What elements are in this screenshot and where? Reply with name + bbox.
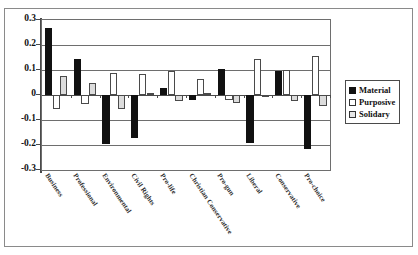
y-tick-mark: [36, 144, 40, 145]
x-tick-mark: [186, 95, 187, 98]
x-tick-mark: [100, 95, 101, 98]
legend-item: Material: [349, 84, 395, 96]
chart-figure: 0.30.20.10-0.1-0.2-0.3 BusinessProfessio…: [0, 0, 418, 255]
bar-material: [189, 95, 196, 100]
y-tick-label: 0.1: [24, 64, 36, 74]
legend-item: Purposive: [349, 96, 395, 108]
bar-purposive: [225, 95, 232, 100]
y-tick-label: -0.1: [21, 114, 36, 124]
x-tick-mark: [301, 95, 302, 98]
bar-material: [304, 95, 311, 149]
y-axis-labels: 0.30.20.10-0.1-0.2-0.3: [0, 0, 36, 255]
x-tick-mark: [244, 95, 245, 98]
bar-purposive: [139, 74, 146, 95]
x-axis-category-label: Professional: [72, 172, 100, 208]
material-swatch: [349, 87, 356, 94]
x-axis-labels: BusinessProfessionalEnvironmentalCivil R…: [41, 172, 331, 252]
legend-item: Solidary: [349, 108, 395, 120]
y-tick-label: 0.3: [24, 14, 36, 24]
bar-solidary: [291, 95, 298, 101]
x-tick-mark: [215, 95, 216, 98]
x-axis-category-label: Conservative: [273, 172, 302, 210]
gridline: [42, 145, 330, 146]
bar-purposive: [197, 79, 204, 95]
bar-solidary: [233, 95, 240, 103]
solidary-swatch: [349, 111, 356, 118]
bar-material: [102, 95, 109, 144]
legend-item-label: Material: [359, 86, 391, 95]
x-tick-mark: [128, 95, 129, 98]
x-tick-mark: [71, 95, 72, 98]
x-axis-category-label: Liberal: [245, 172, 264, 195]
gridline: [42, 120, 330, 121]
x-tick-mark: [330, 95, 331, 98]
bar-material: [246, 95, 253, 143]
y-tick-label: -0.2: [21, 139, 36, 149]
bar-solidary: [262, 95, 269, 97]
bar-solidary: [319, 95, 326, 106]
x-tick-mark: [157, 95, 158, 98]
bar-material: [131, 95, 138, 138]
x-axis-category-label: Pro-choice: [302, 172, 327, 204]
chart-legend: MaterialPurposiveSolidary: [345, 80, 400, 124]
bar-solidary: [204, 93, 211, 95]
bar-purposive: [168, 71, 175, 95]
plot-area: [41, 19, 331, 171]
bar-material: [160, 88, 167, 96]
purposive-swatch: [349, 99, 356, 106]
y-tick-mark: [36, 19, 40, 20]
bar-purposive: [254, 59, 261, 95]
bar-material: [275, 71, 282, 95]
x-tick-mark: [272, 95, 273, 98]
y-tick-mark: [36, 94, 40, 95]
bar-purposive: [110, 73, 117, 96]
x-axis-category-label: Pro-life: [158, 172, 178, 196]
gridline: [42, 45, 330, 46]
y-tick-mark: [36, 119, 40, 120]
bar-purposive: [283, 70, 290, 95]
legend-item-label: Solidary: [359, 110, 390, 119]
bar-purposive: [312, 56, 319, 95]
y-tick-label: -0.3: [21, 164, 36, 174]
y-tick-mark: [36, 44, 40, 45]
bar-solidary: [60, 76, 67, 95]
x-axis-category-label: Business: [43, 172, 64, 198]
bar-material: [218, 69, 225, 95]
bar-solidary: [89, 83, 96, 96]
x-axis-category-label: Environmental: [101, 172, 134, 215]
bar-purposive: [81, 95, 88, 104]
y-tick-label: 0.2: [24, 39, 36, 49]
legend-item-label: Purposive: [359, 98, 395, 107]
bar-solidary: [118, 95, 125, 109]
x-axis-category-label: Pro-gun: [216, 172, 237, 197]
bar-purposive: [53, 95, 60, 109]
bar-solidary: [175, 95, 182, 101]
x-axis-category-label: Civil Rights: [129, 172, 156, 207]
y-tick-mark: [36, 169, 40, 170]
y-tick-mark: [36, 69, 40, 70]
bar-material: [45, 28, 52, 96]
bar-solidary: [147, 93, 154, 95]
bar-material: [74, 59, 81, 95]
